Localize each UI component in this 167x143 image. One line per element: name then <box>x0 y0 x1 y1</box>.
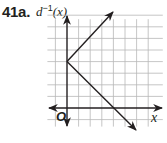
graph <box>0 0 167 143</box>
x-axis-label: x <box>151 110 157 126</box>
origin-label: O <box>56 109 66 124</box>
